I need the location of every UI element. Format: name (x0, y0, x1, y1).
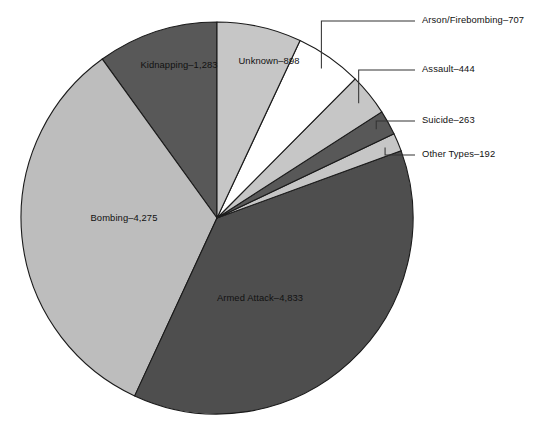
slice-label-armed-attack: Armed Attack–4,833 (217, 292, 303, 303)
slice-label-assault: Assault–444 (422, 63, 475, 74)
slice-label-arson-firebombing: Arson/Firebombing–707 (422, 14, 524, 25)
slice-label-unknown: Unknown–898 (238, 55, 299, 66)
slice-label-suicide: Suicide–263 (422, 114, 475, 125)
slice-label-kidnapping: Kidnapping–1,283 (140, 59, 217, 70)
pie-slices-group (21, 22, 413, 414)
pie-chart-figure: Armed Attack–4,833Bombing–4,275Kidnappin… (0, 0, 542, 442)
pie-chart-svg: Armed Attack–4,833Bombing–4,275Kidnappin… (0, 0, 542, 442)
slice-label-other-types: Other Types–192 (422, 148, 495, 159)
slice-label-bombing: Bombing–4,275 (91, 212, 158, 223)
